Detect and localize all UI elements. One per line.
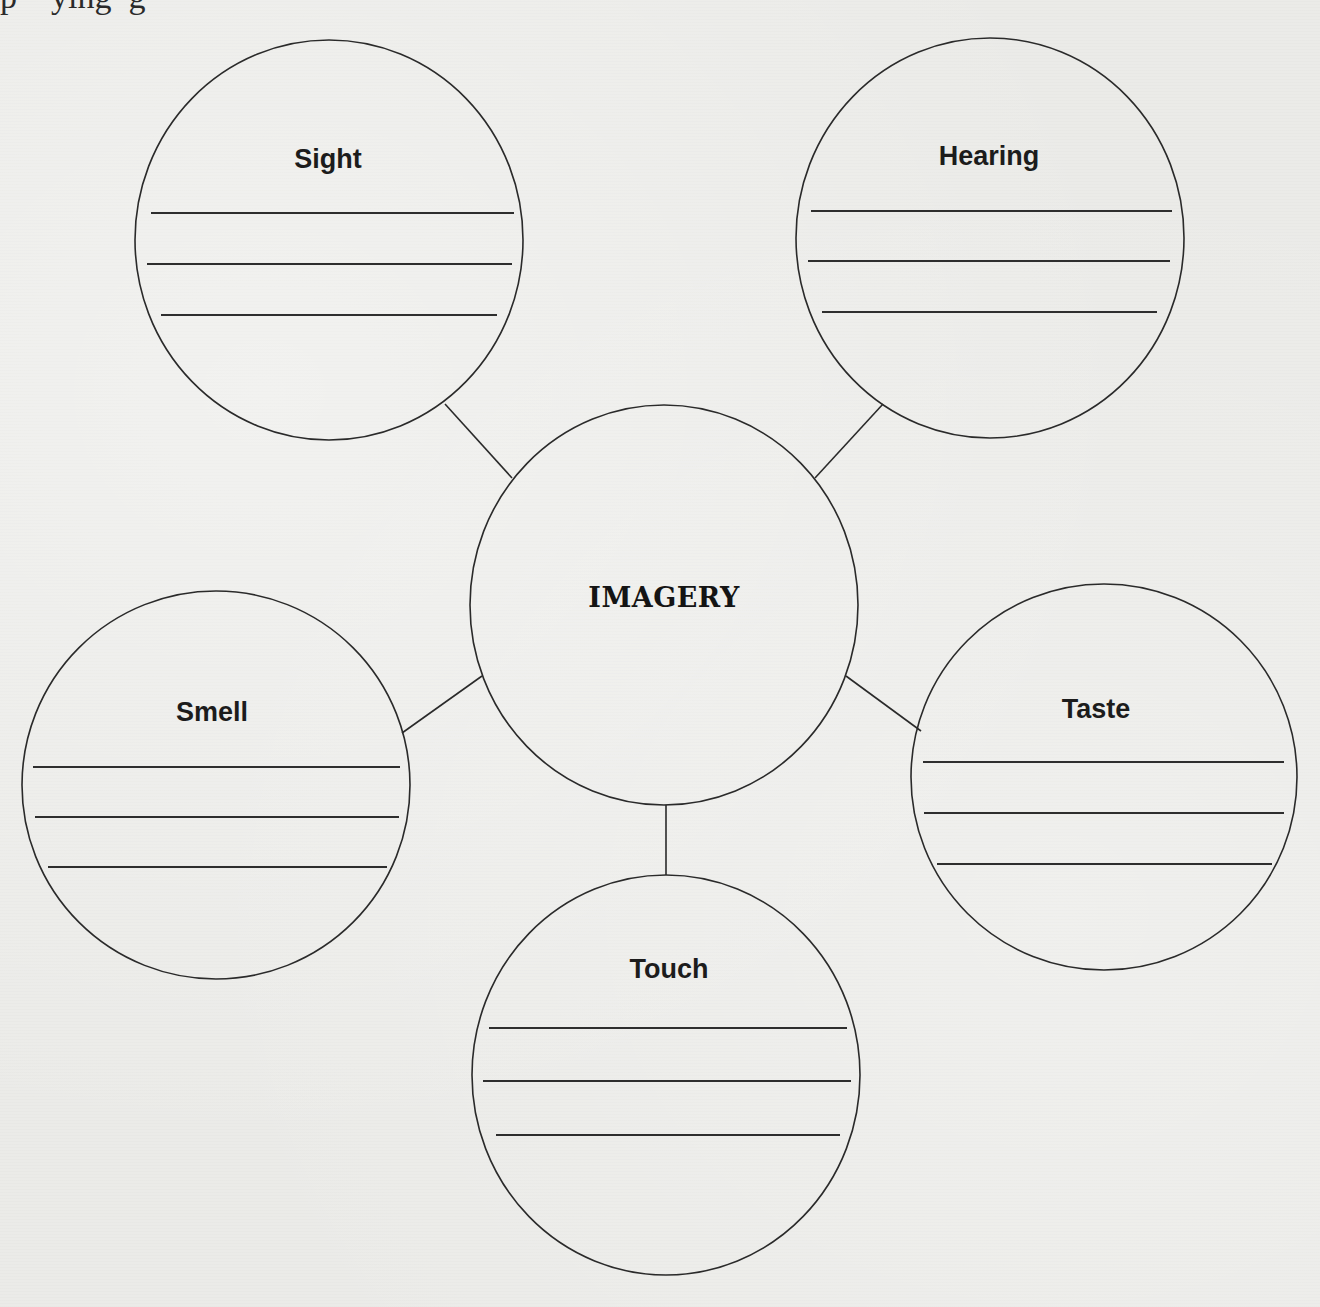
- connector-smell: [402, 676, 482, 733]
- sense-nodes: SightHearingSmellTasteTouch: [22, 38, 1297, 1275]
- smell-circle: [22, 591, 410, 979]
- node-sight: Sight: [135, 40, 523, 440]
- node-hearing: Hearing: [796, 38, 1184, 438]
- taste-label: Taste: [1062, 694, 1131, 724]
- node-touch: Touch: [472, 875, 860, 1275]
- smell-label: Smell: [176, 697, 248, 727]
- connector-taste: [846, 676, 921, 731]
- imagery-web-diagram: IMAGERY SightHearingSmellTasteTouch: [0, 0, 1320, 1307]
- hearing-label: Hearing: [939, 141, 1040, 171]
- touch-label: Touch: [630, 954, 709, 984]
- center-label: IMAGERY: [588, 582, 740, 613]
- node-taste: Taste: [911, 584, 1297, 970]
- hearing-circle: [796, 38, 1184, 438]
- connector-hearing: [815, 404, 883, 478]
- node-smell: Smell: [22, 591, 410, 979]
- sight-label: Sight: [294, 144, 362, 174]
- worksheet-page: p ying g IMAGERY SightHearingSmellTasteT…: [0, 0, 1320, 1307]
- center-node: IMAGERY: [470, 405, 858, 805]
- sight-circle: [135, 40, 523, 440]
- taste-circle: [911, 584, 1297, 970]
- connector-sight: [445, 404, 512, 478]
- touch-circle: [472, 875, 860, 1275]
